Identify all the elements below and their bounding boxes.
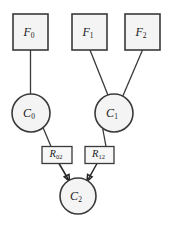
edge-c0-r02 (43, 128, 51, 147)
node-f0[interactable]: F0 (13, 14, 48, 50)
node-c2[interactable]: C2 (60, 178, 96, 214)
edge-f1-c1 (90, 50, 109, 97)
node-r12[interactable]: R12 (85, 147, 114, 164)
node-c0[interactable]: C0 (12, 94, 50, 132)
node-f2[interactable]: F2 (125, 14, 160, 50)
edge-f2-c1 (122, 50, 143, 98)
factor-graph-svg: F0 F1 F2 C0 (0, 0, 174, 226)
node-f1[interactable]: F1 (72, 14, 107, 50)
diagram-canvas: F0 F1 F2 C0 (0, 0, 174, 226)
node-c1[interactable]: C1 (95, 94, 133, 132)
edge-r02-c2 (59, 164, 69, 181)
node-r02[interactable]: R02 (42, 147, 72, 164)
edge-r12-c2 (88, 164, 98, 181)
node-layer: F0 F1 F2 C0 (12, 14, 160, 214)
